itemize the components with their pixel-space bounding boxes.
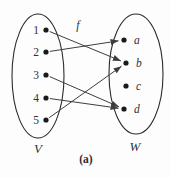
element-dot-5 xyxy=(43,117,48,122)
element-dot-b xyxy=(123,60,128,65)
figure-caption: (a) xyxy=(66,154,106,166)
element-label-2: 2 xyxy=(33,46,39,58)
set-w-ellipse xyxy=(109,14,163,134)
element-dot-c xyxy=(123,83,128,88)
function-mapping-figure: 12345abcd f V W (a) xyxy=(0,0,171,178)
mapping-arrow-3-d xyxy=(50,77,119,107)
element-label-a: a xyxy=(134,34,140,46)
element-dot-2 xyxy=(43,49,48,54)
element-dot-a xyxy=(121,37,126,42)
element-label-5: 5 xyxy=(33,114,39,126)
element-label-1: 1 xyxy=(33,24,39,36)
element-label-d: d xyxy=(134,103,140,115)
element-dot-3 xyxy=(43,72,48,77)
element-dot-d xyxy=(121,106,126,111)
set-v-label: V xyxy=(28,142,48,155)
element-label-b: b xyxy=(136,57,142,69)
set-w-label: W xyxy=(124,140,146,153)
element-dot-1 xyxy=(43,27,48,32)
element-label-3: 3 xyxy=(33,69,39,81)
element-label-4: 4 xyxy=(33,92,39,104)
element-label-c: c xyxy=(136,80,141,92)
function-label: f xyxy=(70,19,86,31)
element-dot-4 xyxy=(43,95,48,100)
